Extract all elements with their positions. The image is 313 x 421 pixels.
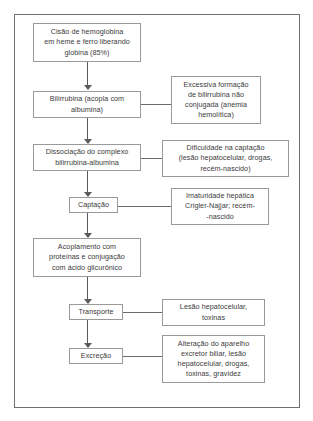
side-note-alteracao-aparelho-excretor: Alteração do aparelho excretor biliar, l… bbox=[162, 335, 265, 383]
flow-node-label: Cisão de hemoglobina em heme e ferro lib… bbox=[37, 27, 137, 58]
figure-frame: Cisão de hemoglobina em heme e ferro lib… bbox=[14, 14, 300, 408]
flow-node-label: Dissociação do complexo bilirrubina-albu… bbox=[37, 147, 137, 167]
flow-node-cisao-hemoglobina: Cisão de hemoglobina em heme e ferro lib… bbox=[33, 23, 141, 62]
arrow-transporte-to-excrecao bbox=[87, 320, 88, 343]
flow-node-acoplamento-proteinas: Acoplamento com proteínas e conjugação c… bbox=[33, 238, 141, 277]
flow-node-dissociacao-complexo: Dissociação do complexo bilirrubina-albu… bbox=[33, 144, 141, 171]
side-note-dificuldade-captacao: Dificuldade na captação (lesão hepatocel… bbox=[162, 140, 289, 177]
flow-node-excrecao: Excreção bbox=[69, 348, 123, 364]
arrow-captacao-to-acoplamento bbox=[87, 213, 88, 233]
connector-captacao-to-imaturidade bbox=[118, 206, 171, 207]
flow-node-label: Acoplamento com proteínas e conjugação c… bbox=[37, 242, 137, 273]
side-note-lesao-hepatocelular-toxinas: Lesão hepatocelular, toxinas bbox=[162, 299, 265, 326]
flow-node-label: Captação bbox=[73, 200, 114, 210]
arrow-cisao-to-bilirrubina bbox=[87, 62, 88, 85]
side-note-label: Alteração do aparelho excretor biliar, l… bbox=[166, 339, 261, 380]
connector-bilirrubina-to-excessiva-formacao bbox=[141, 104, 171, 105]
connector-dissociacao-to-dificuldade bbox=[141, 158, 162, 159]
side-note-label: Imaturidade hepática Crigler-Najjar; rec… bbox=[175, 191, 265, 222]
flow-node-label: Excreção bbox=[73, 351, 119, 361]
side-note-label: Lesão hepatocelular, toxinas bbox=[166, 302, 261, 322]
flowchart-canvas: Cisão de hemoglobina em heme e ferro lib… bbox=[0, 0, 313, 421]
flow-node-captacao: Captação bbox=[69, 197, 118, 213]
flow-node-label: Transporte bbox=[73, 307, 119, 317]
flow-node-bilirrubina-acopla: Bilirrubina (acopla com albumina) bbox=[33, 91, 141, 118]
side-note-imaturidade-hepatica: Imaturidade hepática Crigler-Najjar; rec… bbox=[171, 188, 269, 225]
arrow-acoplamento-to-transporte bbox=[87, 277, 88, 299]
arrow-bilirrubina-to-dissociacao bbox=[87, 118, 88, 139]
connector-transporte-to-lesao bbox=[123, 312, 162, 313]
side-note-label: Dificuldade na captação (lesão hepatocel… bbox=[166, 143, 285, 174]
side-note-label: Excessiva formação de bilirrubina não co… bbox=[175, 80, 257, 121]
flow-node-transporte: Transporte bbox=[69, 304, 123, 320]
arrow-dissociacao-to-captacao bbox=[87, 171, 88, 192]
side-note-excessiva-formacao: Excessiva formação de bilirrubina não co… bbox=[171, 76, 261, 124]
connector-excrecao-to-alteracao bbox=[123, 356, 162, 357]
flow-node-label: Bilirrubina (acopla com albumina) bbox=[37, 94, 137, 114]
